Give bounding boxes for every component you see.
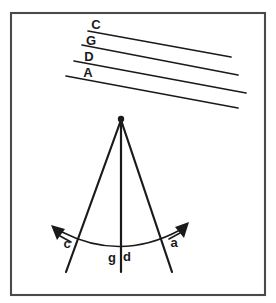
diagram-canvas: CGDA cgda [0,0,276,303]
figure-container: CGDA cgda [0,0,276,303]
parallel-line-label-c: C [91,17,101,32]
lower-label-c: c [63,236,70,251]
canvas-background [0,0,276,303]
parallel-line-label-a: A [83,65,93,80]
lower-label-a: a [170,235,178,250]
lower-label-d: d [123,249,131,264]
parallel-line-label-g: G [86,33,96,48]
parallel-line-label-d: D [84,49,93,64]
apex-point [118,116,124,122]
lower-label-g: g [108,250,116,265]
